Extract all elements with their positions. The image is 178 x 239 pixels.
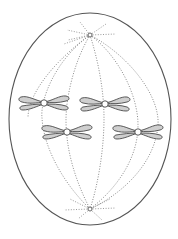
spindle-fiber xyxy=(66,35,90,209)
chromosome-3 xyxy=(42,125,92,139)
spindle-fiber xyxy=(90,35,104,209)
chromosome-2 xyxy=(80,97,130,111)
bottom-centrosome xyxy=(88,207,92,211)
chromosomes xyxy=(19,96,163,139)
chromosome-1 xyxy=(19,96,69,110)
spindle-fiber xyxy=(90,35,138,209)
top-centrosome xyxy=(88,33,92,37)
mitosis-metaphase-diagram: Cell in metaphase of mitosis xyxy=(0,0,178,239)
cell-membrane xyxy=(9,13,171,225)
spindle-fiber xyxy=(90,35,158,209)
spindle-fibers xyxy=(28,35,158,209)
diagram-canvas xyxy=(0,0,178,239)
